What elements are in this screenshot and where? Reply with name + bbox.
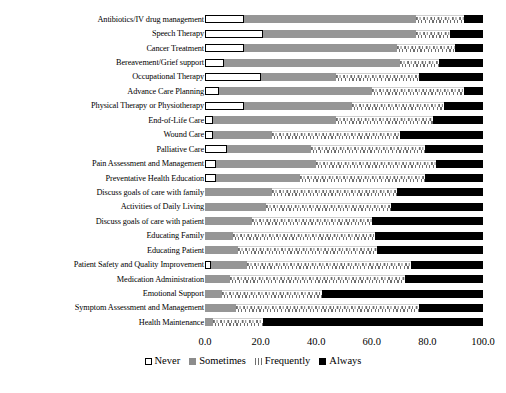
bar-track [205,318,483,326]
bar-segment-always [419,73,483,81]
bar-segment-frequently [397,44,455,52]
bar-segment-always [372,217,483,225]
bar-track [205,87,483,95]
bar-segment-sometimes [244,15,416,23]
bar-segment-never [205,145,227,153]
chart-legend: NeverSometimesFrequentlyAlways [0,355,506,367]
category-label: Health Maintenance [0,318,204,327]
chart-row: Pain Assessment and Management [0,156,506,170]
bar-track [205,145,483,153]
bar-segment-sometimes [205,318,213,326]
bar-track [205,59,483,67]
chart-rows-area: Antibiotics/IV drug managementSpeech The… [0,12,506,330]
bar-segment-sometimes [244,102,352,110]
bar-track [205,160,483,168]
legend-item-frequently[interactable]: Frequently [255,355,311,367]
chart-row: Emotional Support [0,286,506,300]
x-tick-label: 20.0 [251,336,269,348]
legend-item-always[interactable]: Always [319,355,361,367]
category-label: Advance Care Planning [0,87,204,96]
bar-segment-sometimes [205,232,233,240]
bar-segment-always [444,102,483,110]
bar-track [205,261,483,269]
chart-row: Discuss goals of care with patient [0,214,506,228]
bar-segment-always [425,174,483,182]
chart-row: Wound Care [0,128,506,142]
bar-segment-frequently [352,102,444,110]
bar-segment-never [205,160,216,168]
bar-segment-frequently [416,30,449,38]
chart-row: Patient Safety and Quality Improvement [0,257,506,271]
bar-segment-always [397,188,483,196]
chart-row: Preventative Health Education [0,171,506,185]
category-label: Discuss goals of care with patient [0,217,204,226]
category-label: Emotional Support [0,289,204,298]
bar-segment-frequently [233,232,375,240]
bar-segment-always [439,59,483,67]
bar-segment-sometimes [205,304,236,312]
bar-track [205,44,483,52]
bar-segment-never [205,15,244,23]
legend-label: Never [155,355,181,367]
legend-label: Sometimes [199,355,246,367]
bar-segment-sometimes [224,59,399,67]
bar-track [205,30,483,38]
bar-track [205,73,483,81]
bar-track [205,174,483,182]
x-tick-label: 0.0 [198,336,211,348]
bar-segment-frequently [266,203,391,211]
bar-track [205,188,483,196]
bar-segment-always [263,318,483,326]
category-label: Wound Care [0,130,204,139]
chart-row: Cancer Treatment [0,41,506,55]
bar-track [205,304,483,312]
bar-track [205,246,483,254]
legend-item-never[interactable]: Never [145,355,181,367]
bar-segment-never [205,44,244,52]
bar-track [205,15,483,23]
bar-segment-sometimes [205,246,238,254]
category-label: Bereavement/Grief support [0,58,204,67]
category-label: Patient Safety and Quality Improvement [0,260,204,269]
bar-segment-sometimes [205,203,266,211]
bar-segment-frequently [372,87,464,95]
bar-segment-frequently [238,246,377,254]
category-label: Preventative Health Education [0,174,204,183]
bar-track [205,232,483,240]
category-label: Pain Assessment and Management [0,159,204,168]
bar-segment-sometimes [205,290,222,298]
chart-row: Activities of Daily Living [0,200,506,214]
bar-segment-always [450,30,483,38]
bar-segment-sometimes [227,145,310,153]
bar-segment-sometimes [205,217,252,225]
bar-segment-always [375,232,483,240]
bar-segment-never [205,102,244,110]
bar-track [205,131,483,139]
bar-segment-never [205,131,213,139]
chart-row: Antibiotics/IV drug management [0,12,506,26]
bar-segment-always [455,44,483,52]
bar-segment-never [205,73,261,81]
bar-segment-frequently [213,318,263,326]
bar-segment-frequently [416,15,463,23]
chart-row: Symptom Assessment and Management [0,301,506,315]
bar-track [205,102,483,110]
category-label: Discuss goals of care with family [0,188,204,197]
bar-segment-always [433,116,483,124]
legend-item-sometimes[interactable]: Sometimes [189,355,246,367]
bar-segment-frequently [336,116,433,124]
legend-swatch-never-icon [145,358,152,365]
bar-segment-always [464,15,483,23]
bar-segment-always [436,160,483,168]
bar-segment-always [464,87,483,95]
bar-segment-sometimes [219,87,372,95]
bar-segment-frequently [272,131,400,139]
bar-segment-never [205,87,219,95]
category-label: Educating Patient [0,246,204,255]
bar-segment-sometimes [216,174,299,182]
bar-segment-always [400,131,483,139]
bar-segment-never [205,59,224,67]
category-label: Palliative Care [0,145,204,154]
bar-segment-sometimes [205,188,272,196]
bar-segment-always [425,145,483,153]
